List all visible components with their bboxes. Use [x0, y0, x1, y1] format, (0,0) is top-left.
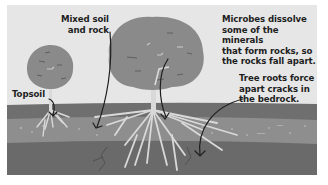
label-tree-roots: Tree roots force apart cracks in the bed…	[239, 73, 314, 105]
label-topsoil: Topsoil	[12, 89, 45, 100]
label-microbes: Microbes dissolve some of the minerals t…	[222, 14, 317, 67]
label-mixed-soil: Mixed soil and rock	[61, 14, 109, 35]
diagram-panel: Mixed soil and rock Topsoil Microbes dis…	[7, 5, 317, 175]
mixed-soil-layer	[7, 116, 317, 144]
